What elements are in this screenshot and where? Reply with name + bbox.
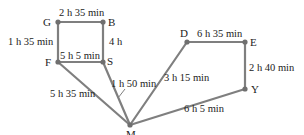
edge-label-g-f: 1 h 35 min bbox=[8, 36, 54, 47]
node-label-y: Y bbox=[251, 83, 259, 95]
node-label-m: M bbox=[126, 128, 136, 135]
route-graph-diagram: G B F S M D E Y 2 h 35 min 1 h 35 min 4 … bbox=[0, 0, 304, 135]
node-label-s: S bbox=[107, 55, 113, 67]
edge-label-b-s: 4 h bbox=[109, 36, 123, 47]
node-e bbox=[242, 39, 247, 44]
edge-label-f-s: 5 h 5 min bbox=[60, 50, 101, 61]
edge-s-m bbox=[103, 62, 130, 125]
edge-label-s-m: 1 h 50 min bbox=[111, 78, 157, 89]
edge-label-g-b: 2 h 35 min bbox=[59, 7, 105, 18]
node-label-g: G bbox=[43, 16, 51, 28]
node-s bbox=[100, 59, 105, 64]
node-label-e: E bbox=[250, 36, 257, 48]
edge-label-e-y: 2 h 40 min bbox=[249, 62, 295, 73]
node-label-f: F bbox=[45, 56, 51, 68]
node-b bbox=[100, 19, 105, 24]
node-label-d: D bbox=[180, 27, 188, 39]
node-d bbox=[184, 39, 189, 44]
edge-label-d-e: 6 h 35 min bbox=[197, 28, 243, 39]
node-label-b: B bbox=[108, 16, 115, 28]
edge-label-f-m: 5 h 35 min bbox=[50, 88, 96, 99]
edge-label-m-y: 6 h 5 min bbox=[184, 103, 225, 114]
node-m bbox=[127, 122, 132, 127]
node-y bbox=[242, 86, 247, 91]
node-g bbox=[55, 19, 60, 24]
label-leader-s-m bbox=[118, 89, 125, 98]
edge-label-m-d: 3 h 15 min bbox=[164, 72, 210, 83]
